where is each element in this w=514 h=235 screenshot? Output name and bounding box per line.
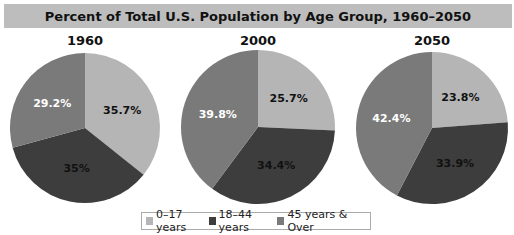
slice-value-label: 23.8% xyxy=(441,91,479,104)
legend-swatch xyxy=(209,217,216,225)
legend-item-0-17: 0–17 years xyxy=(146,208,209,234)
legend-label: 0–17 years xyxy=(156,208,209,234)
slice-value-label: 33.9% xyxy=(436,157,474,170)
slice-value-label: 42.4% xyxy=(372,112,410,125)
slice-value-label: 39.8% xyxy=(199,108,237,121)
legend-item-45-over: 45 years & Over xyxy=(277,208,366,234)
pie-charts: 35.7%35%29.2%25.7%34.4%39.8%23.8%33.9%42… xyxy=(0,0,514,235)
slice-value-label: 35% xyxy=(63,162,89,175)
slice-value-label: 35.7% xyxy=(103,104,141,117)
legend-swatch xyxy=(146,217,153,225)
slice-value-label: 29.2% xyxy=(33,97,71,110)
slice-value-label: 25.7% xyxy=(270,92,308,105)
legend: 0–17 years 18–44 years 45 years & Over xyxy=(141,212,371,230)
legend-label: 45 years & Over xyxy=(287,208,366,234)
legend-swatch xyxy=(277,217,284,225)
pie-slice xyxy=(258,50,335,131)
pie-slice xyxy=(432,52,508,128)
legend-label: 18–44 years xyxy=(219,208,278,234)
slice-value-label: 34.4% xyxy=(257,159,295,172)
legend-item-18-44: 18–44 years xyxy=(209,208,278,234)
